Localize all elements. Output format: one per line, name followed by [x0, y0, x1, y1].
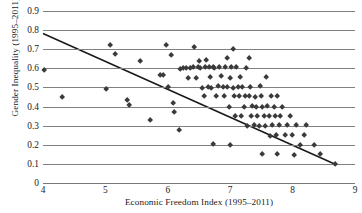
y-tick-label: 0.4	[5, 102, 39, 112]
plot-area: 00.10.20.30.40.50.60.70.80.9456789	[43, 11, 355, 183]
y-tick-label: 0.3	[5, 121, 39, 131]
y-tick-label: 0.2	[5, 140, 39, 150]
gridline	[43, 30, 355, 31]
gridline	[43, 11, 355, 12]
gridline	[43, 107, 355, 108]
x-tick-label: 5	[93, 185, 117, 195]
x-axis-title: Economic Freedom Index (1995–2011)	[43, 197, 355, 207]
y-tick-label: 0.8	[5, 25, 39, 35]
scatter-chart: Gender Inequality (1995–2011) 00.10.20.3…	[0, 0, 362, 213]
y-tick-label: 0.1	[5, 159, 39, 169]
gridline	[43, 183, 355, 184]
y-tick-label: 0.6	[5, 63, 39, 73]
x-tick-label: 6	[156, 185, 180, 195]
x-tick-label: 9	[343, 185, 362, 195]
x-tick-label: 4	[31, 185, 55, 195]
x-tick-label: 8	[281, 185, 305, 195]
gridline	[43, 49, 355, 50]
gridline	[43, 164, 355, 165]
trend-line	[43, 11, 355, 183]
gridline	[43, 145, 355, 146]
x-tick-label: 7	[218, 185, 242, 195]
y-tick-label: 0.5	[5, 82, 39, 92]
y-tick-label: 0.9	[5, 6, 39, 16]
y-tick-label: 0.7	[5, 44, 39, 54]
